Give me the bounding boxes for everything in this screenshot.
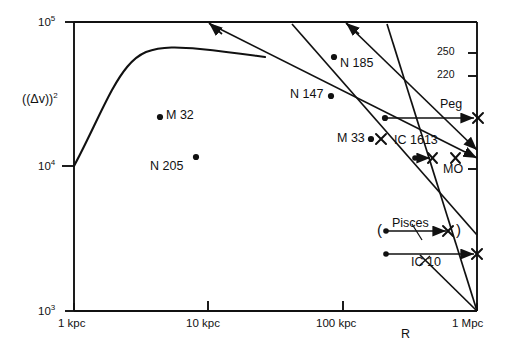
xtick-label-10kpc: 10 kpc	[186, 318, 220, 330]
diagonal-line-3	[347, 24, 477, 150]
object-label-pisces: Pisces	[392, 217, 429, 230]
pisces-bracket-close: )	[456, 222, 461, 237]
object-label-ic10: IC 10	[411, 256, 441, 269]
point-n205	[193, 154, 199, 160]
ytick-label-1e3: 103	[38, 304, 55, 317]
rotation-curve	[74, 47, 265, 166]
right-axis-label-250: 250	[437, 46, 455, 57]
xtick-label-1kpc: 1 kpc	[58, 318, 86, 330]
ytick-label-1e4: 104	[38, 159, 55, 172]
cross-peg	[473, 113, 483, 123]
object-label-peg: Peg	[440, 98, 462, 111]
point-n185	[331, 54, 337, 60]
xtick-label-100kpc: 100 kpc	[316, 318, 356, 330]
pisces-bracket-open: (	[377, 222, 382, 237]
object-label-n185: N 185	[340, 57, 373, 70]
x-axis-title: R	[401, 328, 410, 341]
diagonal-line-3-arrow	[346, 23, 359, 34]
ytick-label-1e5: 105	[38, 15, 55, 28]
object-label-n205: N 205	[150, 160, 183, 173]
y-axis-title: ((Δv))2	[22, 92, 58, 106]
object-label-n147: N 147	[290, 88, 323, 101]
point-m33	[368, 136, 374, 142]
point-m32	[157, 114, 163, 120]
figure-canvas: 105 104 103 ((Δv))2 1 kpc 10 kpc 100 kpc…	[0, 0, 517, 353]
cross-m33	[376, 134, 386, 144]
object-label-m33: M 33	[337, 132, 365, 145]
object-label-ic1613: IC 1613	[394, 134, 438, 147]
right-axis-label-220: 220	[437, 69, 455, 80]
xtick-label-1mpc: 1 Mpc	[452, 318, 483, 330]
point-n147	[328, 93, 334, 99]
object-label-mo: MO	[443, 163, 463, 176]
object-label-m32: M 32	[166, 109, 194, 122]
